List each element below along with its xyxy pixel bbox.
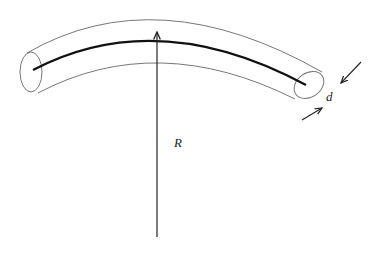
tube-top-edge [27,20,322,72]
diameter-arrow-lower [302,108,322,120]
bent-tube-diagram: R d [0,0,381,253]
diameter-label: d [326,89,333,104]
radius-label: R [173,135,182,150]
tube-right-end [289,66,329,104]
tube-outline [20,20,329,104]
diameter-arrow-upper [341,62,361,83]
tube-bottom-edge [38,63,295,99]
tube-left-end [20,52,42,92]
